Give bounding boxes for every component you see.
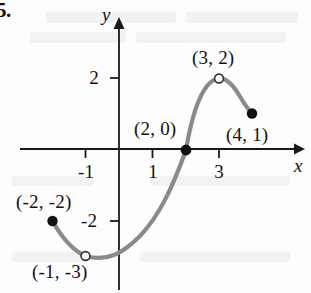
open-point-marker-3-2 [215, 74, 224, 83]
open-point-marker-neg1-neg3 [81, 252, 90, 261]
point-label-neg1-neg3: (-1, -3) [32, 261, 87, 283]
y-axis-label: y [102, 4, 110, 26]
point-label-3-2: (3, 2) [192, 47, 234, 69]
closed-point-marker-2-0 [181, 145, 192, 156]
point-label-neg2-neg2: (-2, -2) [16, 191, 71, 213]
y-tick-label-2: 2 [84, 67, 104, 89]
x-axis-label: x [294, 155, 302, 177]
function-graph-plot [0, 0, 311, 293]
x-tick-label-neg1: -1 [70, 161, 102, 183]
closed-point-marker-4-1 [247, 108, 257, 118]
closed-point-marker-neg2-neg2 [47, 216, 57, 226]
y-tick-label-neg2: -2 [73, 210, 105, 232]
graph-figure: 5. [0, 0, 311, 293]
point-label-4-1: (4, 1) [226, 124, 268, 146]
point-label-2-0: (2, 0) [134, 118, 176, 140]
x-axis-ticks [86, 149, 220, 158]
x-tick-label-1: 1 [140, 161, 166, 183]
x-tick-label-3: 3 [206, 161, 232, 183]
